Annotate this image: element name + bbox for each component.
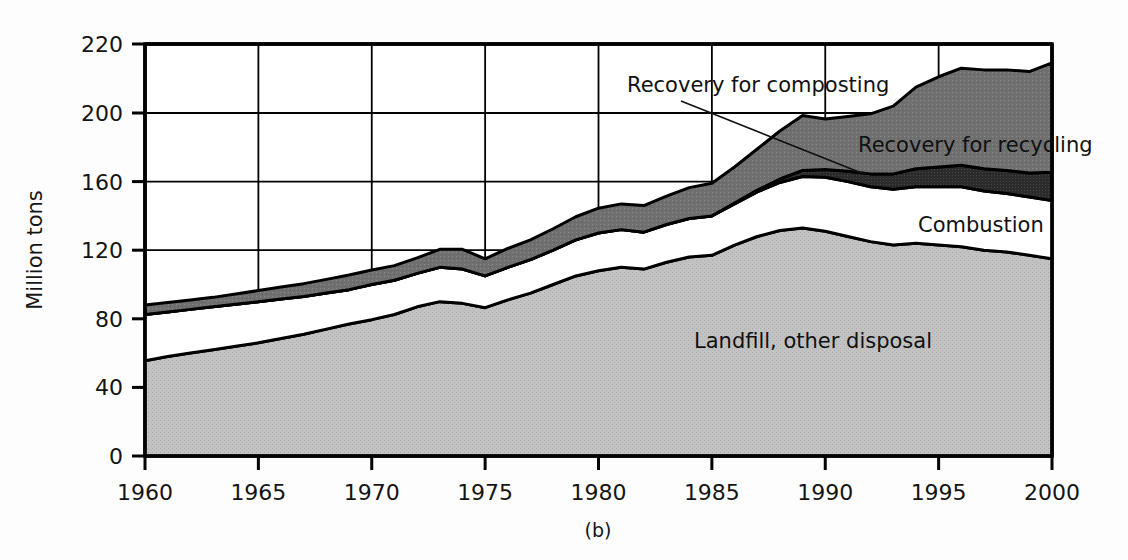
x-axis-ticks: 196019651970197519801985199019952000 <box>117 456 1080 505</box>
y-axis-title: Million tons <box>23 190 47 310</box>
series-label-recycling: Recovery for recycling <box>858 133 1093 157</box>
x-axis-tick-label: 2000 <box>1024 480 1080 505</box>
y-axis-tick-label: 220 <box>81 32 123 57</box>
stacked-area-chart: 22020016012080400 1960196519701975198019… <box>0 0 1128 560</box>
x-axis-tick-label: 1990 <box>797 480 853 505</box>
x-axis-tick-label: 1985 <box>684 480 740 505</box>
figure-caption: (b) <box>585 519 612 541</box>
x-axis-tick-label: 1970 <box>344 480 400 505</box>
y-axis-tick-label: 120 <box>81 238 123 263</box>
x-axis-tick-label: 1980 <box>571 480 627 505</box>
series-label-combustion: Combustion <box>918 213 1044 237</box>
y-axis-tick-label: 40 <box>95 375 123 400</box>
y-axis-ticks: 22020016012080400 <box>81 32 145 469</box>
y-axis-tick-label: 160 <box>81 170 123 195</box>
x-axis-tick-label: 1975 <box>457 480 513 505</box>
y-axis-tick-label: 0 <box>109 444 123 469</box>
series-label-landfill: Landfill, other disposal <box>694 329 932 353</box>
x-axis-tick-label: 1960 <box>117 480 173 505</box>
figure-container: 22020016012080400 1960196519701975198019… <box>0 0 1128 560</box>
series-label-composting: Recovery for composting <box>627 73 889 97</box>
x-axis-tick-label: 1965 <box>230 480 286 505</box>
x-axis-tick-label: 1995 <box>911 480 967 505</box>
y-axis-tick-label: 80 <box>95 307 123 332</box>
y-axis-tick-label: 200 <box>81 101 123 126</box>
